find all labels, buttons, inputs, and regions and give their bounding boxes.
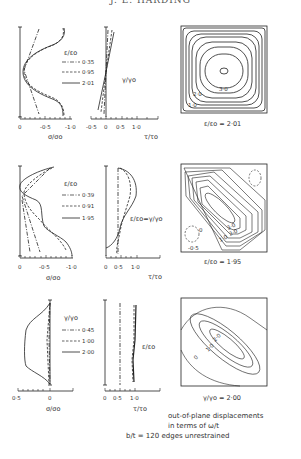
row2-legend-label-1: 0·39 (82, 192, 95, 198)
row3-legend-label-3: 2·00 (82, 349, 95, 355)
row2-tau-annotation: ε/εo=γ/γo (130, 215, 163, 223)
row2-tau-tick-0: 0 (104, 264, 108, 270)
row1-contour-plot (181, 26, 267, 113)
row3-contour-label-0: 0 (192, 354, 199, 361)
row2-contour-label-0: 0 (199, 227, 203, 233)
row1-sigma-tick-1: -0·5 (40, 124, 51, 130)
row1-tau-tick-3: 1·0 (132, 124, 141, 130)
row1-contour-label-3: 3·0 (219, 86, 228, 92)
row2-contour-caption: ε/εo = 1·95 (204, 258, 241, 266)
row2-sigma-tick-2: -1·0 (66, 264, 77, 270)
row1-sigma-tick-0: 0 (18, 124, 22, 130)
row3-contour-plot (181, 298, 268, 386)
row1-tau-plot (91, 27, 158, 119)
row3-legend-title: γ/γo (64, 314, 78, 322)
row1-contour-label-1: 1·0 (188, 102, 197, 108)
row3-sigma-tick-0: 0·5 (12, 395, 21, 401)
row2-legend-title: ε/εo (64, 180, 77, 188)
footer-line-1: out-of-plane displacements (168, 411, 263, 421)
row1-tau-axis-label: τ/τo (144, 133, 158, 141)
row3-contour-caption: γ/γo = 2·00 (203, 394, 241, 402)
row1-contour-caption: ε/εo = 2·01 (204, 120, 241, 128)
row2-legend-label-2: 0·91 (82, 203, 94, 209)
row2-sigma-axis-label: σ/σo (46, 274, 60, 282)
row2-sigma-tick-1: -0·5 (39, 264, 50, 270)
row3-tau-axis-label: τ/τo (133, 405, 147, 413)
row1-legend-label-3: 2·01 (82, 80, 94, 86)
row2-tau-tick-1: 0·5 (114, 264, 123, 270)
row2-tau-plot (104, 166, 160, 258)
row1-legend-label-2: 0·95 (82, 69, 95, 75)
row2-legend-label-3: 1·95 (82, 215, 95, 221)
row2-sigma-tick-0: 0 (18, 264, 22, 270)
row1-sigma-axis-label: σ/σo (48, 133, 62, 141)
footer-line-2: in terms of ω/t (168, 421, 219, 431)
row3-legend-label-1: 0·45 (82, 327, 95, 333)
footer-line-3: b/t = 120 edges unrestrained (126, 431, 229, 441)
row1-sigma-plot (18, 27, 72, 119)
row1-tau-tick-2: 0·5 (116, 124, 125, 130)
row1-contour-label-2: 2·0 (193, 91, 202, 97)
row2-contour-label-neg: -0·5 (188, 245, 199, 251)
row2-contour-label-1: 1·0 (218, 234, 229, 243)
row3-contour-label-2: 2·0 (211, 332, 222, 343)
row3-contour-label-1: 1·0 (204, 342, 215, 353)
row1-legend-title: ε/εo (64, 49, 77, 57)
row1-legend-label-1: 0·35 (82, 59, 95, 65)
row3-tau-tick-0: 0 (103, 395, 107, 401)
row3-legend-label-2: 1·00 (82, 338, 95, 344)
row3-sigma-axis-label: σ/σo (46, 405, 60, 413)
figure-canvas: ε/εo 0·35 0·95 2·01 0 -0·5 -1·0 σ/σo -0·… (0, 0, 301, 459)
row1-tau-tick-0: -0·5 (86, 124, 97, 130)
row3-tau-annotation: ε/εo (142, 343, 155, 351)
row3-sigma-tick-1: 0 (48, 395, 52, 401)
row1-tau-annotation: γ/γo (122, 76, 136, 84)
row2-tau-tick-2: 1·0 (131, 264, 140, 270)
row1-tau-tick-1: 0 (104, 124, 108, 130)
row2-tau-axis-label: τ/τo (148, 273, 162, 281)
row3-tau-tick-2: 1·0 (130, 395, 139, 401)
row3-tau-tick-1: 0·5 (113, 395, 122, 401)
row1-sigma-tick-2: -1·0 (65, 124, 76, 130)
